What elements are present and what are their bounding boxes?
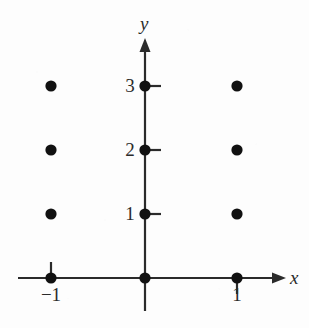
grid-point	[139, 272, 150, 283]
grid-point	[231, 272, 242, 283]
x-tick-label-1: 1	[227, 285, 247, 304]
y-tick-label-1: 1	[122, 204, 138, 223]
grid-point	[45, 272, 56, 283]
grid-point	[139, 80, 150, 91]
coordinate-plane-svg	[0, 0, 309, 328]
y-axis-label: y	[140, 14, 148, 33]
grid-point	[45, 144, 56, 155]
y-tick-label-2: 2	[122, 140, 138, 159]
x-tick-label-negative-1: −1	[33, 285, 69, 304]
coordinate-plane-figure: y x 3 2 1 −1 1	[0, 0, 309, 328]
grid-point	[45, 80, 56, 91]
y-tick-label-3: 3	[122, 76, 138, 95]
grid-point	[231, 144, 242, 155]
y-axis-arrowhead	[140, 38, 151, 52]
grid-point	[231, 208, 242, 219]
grid-point	[231, 80, 242, 91]
grid-point	[139, 144, 150, 155]
grid-point	[45, 208, 56, 219]
x-axis-label: x	[290, 268, 298, 287]
grid-point	[139, 208, 150, 219]
x-axis-arrowhead	[272, 273, 286, 284]
